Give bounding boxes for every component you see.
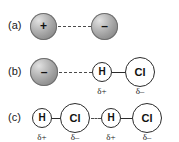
partial-negative-label-c1: δ– — [65, 132, 85, 142]
hydrogen-bond-dashed-line-c — [91, 118, 101, 119]
hydrogen-atom-b: H — [92, 62, 112, 82]
intermolecular-forces-diagram: (a) + – (b) – H Cl δ+ δ– (c) H Cl H Cl δ… — [0, 0, 179, 142]
row-label-b: (b) — [8, 65, 21, 77]
chlorine-atom-c2: Cl — [132, 103, 162, 133]
hydrogen-symbol-c2: H — [107, 113, 114, 123]
anion-charge-label: – — [101, 20, 108, 32]
hydrogen-atom-c2: H — [101, 108, 121, 128]
covalent-bond-c2 — [121, 118, 132, 119]
partial-positive-label-b: δ+ — [92, 86, 112, 96]
row-label-c: (c) — [8, 111, 21, 123]
hydrogen-symbol-c1: H — [38, 113, 45, 123]
chlorine-atom-b: Cl — [125, 57, 155, 87]
chlorine-symbol-b: Cl — [135, 67, 146, 78]
chlorine-atom-c1: Cl — [60, 103, 90, 133]
partial-negative-label-c2: δ– — [137, 132, 157, 142]
cation-sphere-a: + — [30, 13, 57, 40]
chlorine-symbol-c2: Cl — [142, 113, 153, 124]
partial-negative-label-b: δ– — [130, 86, 150, 96]
hydrogen-symbol-b: H — [98, 67, 105, 77]
row-label-a: (a) — [8, 19, 21, 31]
covalent-bond-b — [112, 72, 125, 73]
hydrogen-atom-c1: H — [32, 108, 52, 128]
covalent-bond-c1 — [52, 118, 60, 119]
anion-sphere-a: – — [91, 13, 118, 40]
partial-positive-label-c2: δ+ — [101, 132, 121, 142]
chlorine-symbol-c1: Cl — [70, 113, 81, 124]
electrostatic-attraction-dashed-line-a — [58, 26, 91, 27]
anion-sphere-b: – — [30, 58, 58, 86]
ion-dipole-dashed-line-b — [59, 72, 92, 73]
cation-charge-label: + — [40, 20, 47, 32]
anion-charge-label-b: – — [41, 66, 48, 78]
partial-positive-label-c1: δ+ — [32, 132, 52, 142]
